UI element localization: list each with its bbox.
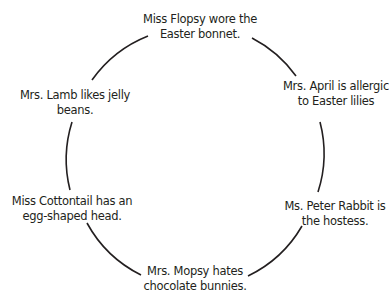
node-upper-left: Mrs. Lamb likes jelly beans. bbox=[20, 88, 130, 118]
node-lower-right-line1: Ms. Peter Rabbit is bbox=[284, 199, 385, 214]
node-upper-left-line2: beans. bbox=[20, 103, 130, 118]
cycle-arcs bbox=[0, 0, 389, 308]
arc-upper-right-to-lower-right bbox=[318, 122, 324, 192]
node-upper-right-line2: to Easter lilies bbox=[283, 94, 389, 109]
arc-upper-left-to-top bbox=[92, 36, 148, 80]
node-upper-right-line1: Mrs. April is allergic bbox=[283, 79, 389, 94]
node-top-line1: Miss Flopsy wore the bbox=[143, 12, 257, 27]
arc-bottom-to-lower-left bbox=[87, 223, 141, 275]
node-upper-right: Mrs. April is allergic to Easter lilies bbox=[283, 79, 389, 109]
node-lower-right: Ms. Peter Rabbit is the hostess. bbox=[284, 199, 385, 229]
node-top: Miss Flopsy wore the Easter bonnet. bbox=[143, 12, 257, 42]
node-lower-left-line1: Miss Cottontail has an bbox=[12, 194, 132, 209]
arc-lower-left-to-upper-left bbox=[66, 122, 72, 190]
arc-top-to-upper-right bbox=[252, 38, 296, 76]
node-lower-left-line2: egg-shaped head. bbox=[12, 209, 132, 224]
node-lower-right-line2: the hostess. bbox=[284, 214, 385, 229]
node-bottom: Mrs. Mopsy hates chocolate bunnies. bbox=[143, 264, 246, 294]
node-bottom-line2: chocolate bunnies. bbox=[143, 279, 246, 294]
node-bottom-line1: Mrs. Mopsy hates bbox=[143, 264, 246, 279]
node-upper-left-line1: Mrs. Lamb likes jelly bbox=[20, 88, 130, 103]
arc-lower-right-to-bottom bbox=[248, 226, 302, 276]
node-lower-left: Miss Cottontail has an egg-shaped head. bbox=[12, 194, 132, 224]
node-top-line2: Easter bonnet. bbox=[143, 27, 257, 42]
